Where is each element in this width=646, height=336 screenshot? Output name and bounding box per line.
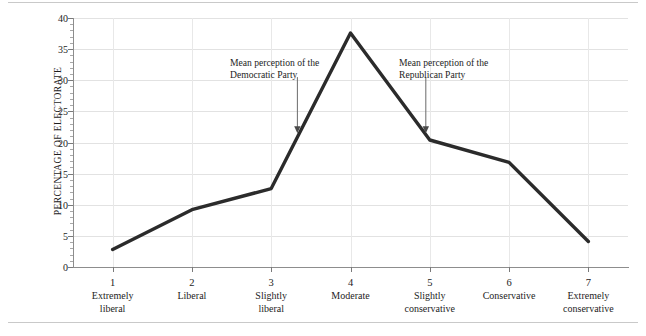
y-axis-minor-tick (70, 217, 73, 218)
y-axis-minor-tick (70, 99, 73, 100)
y-axis-minor-tick (70, 149, 73, 150)
annotation-republican-party: Mean perception of the Republican Party (399, 57, 511, 82)
y-axis-minor-tick (70, 261, 73, 262)
x-axis-tick-label-line2: liberal (58, 303, 168, 316)
grid-line-vertical (430, 18, 431, 267)
y-axis-major-tick (68, 267, 73, 268)
y-axis-minor-tick (70, 55, 73, 56)
y-axis-minor-tick (70, 155, 73, 156)
y-axis-line (73, 18, 74, 268)
grid-line-vertical (192, 18, 193, 267)
grid-line-vertical (351, 18, 352, 267)
y-axis-major-tick (68, 80, 73, 81)
y-axis-minor-tick (70, 248, 73, 249)
grid-line-vertical (588, 18, 589, 267)
y-axis-tick-label: 35 (42, 44, 68, 55)
y-axis-minor-tick (70, 180, 73, 181)
x-axis-tick (430, 267, 431, 272)
x-axis-tick (351, 267, 352, 272)
x-axis-tick (113, 267, 114, 272)
y-axis-minor-tick (70, 161, 73, 162)
y-axis-tick-label: 40 (42, 13, 68, 24)
y-axis-minor-tick (70, 211, 73, 212)
y-axis-major-tick (68, 111, 73, 112)
y-axis-minor-tick (70, 86, 73, 87)
y-axis-minor-tick (70, 230, 73, 231)
y-axis-minor-tick (70, 68, 73, 69)
y-axis-minor-tick (70, 74, 73, 75)
y-axis-major-tick (68, 205, 73, 206)
y-axis-tick-label: 10 (42, 199, 68, 210)
y-axis-minor-tick (70, 37, 73, 38)
y-axis-major-tick (68, 18, 73, 19)
y-axis-minor-tick (70, 223, 73, 224)
x-axis-tick (192, 267, 193, 272)
y-axis-tick-labels: 4035302520151050 (40, 18, 68, 267)
y-axis-minor-tick (70, 192, 73, 193)
x-axis-tick-label-line2: conservative (533, 303, 643, 316)
x-axis-tick (271, 267, 272, 272)
y-axis-minor-tick (70, 124, 73, 125)
y-axis-major-tick (68, 143, 73, 144)
bottom-divider-rule (8, 322, 638, 323)
grid-line-vertical (271, 18, 272, 267)
y-axis-tick-label: 0 (42, 262, 68, 273)
y-axis-tick-label: 15 (42, 168, 68, 179)
grid-line-vertical (509, 18, 510, 267)
x-axis-tick (588, 267, 589, 272)
plot-area (73, 18, 628, 267)
y-axis-minor-tick (70, 24, 73, 25)
y-axis-minor-tick (70, 255, 73, 256)
y-axis-major-tick (68, 174, 73, 175)
x-axis-tick-label-line1: Extremely (533, 290, 643, 303)
y-axis-minor-tick (70, 186, 73, 187)
y-axis-minor-tick (70, 62, 73, 63)
top-divider-rule (8, 2, 638, 3)
y-axis-minor-tick (70, 118, 73, 119)
y-axis-minor-tick (70, 43, 73, 44)
y-axis-minor-tick (70, 93, 73, 94)
y-axis-tick-label: 20 (42, 137, 68, 148)
x-axis-tick-group: 7Extremelyconservative (533, 276, 643, 315)
y-axis-tick-label: 25 (42, 106, 68, 117)
x-axis-tick-number: 7 (533, 276, 643, 289)
figure-container: PERCENTAGE OF ELECTORATE 403530252015105… (0, 0, 646, 336)
y-axis-major-tick (68, 236, 73, 237)
x-axis-tick (509, 267, 510, 272)
y-axis-minor-tick (70, 30, 73, 31)
x-axis-tick-label-line2: liberal (216, 303, 326, 316)
y-axis-minor-tick (70, 105, 73, 106)
y-axis-major-tick (68, 49, 73, 50)
y-axis-minor-tick (70, 199, 73, 200)
y-axis-tick-label: 30 (42, 75, 68, 86)
y-axis-minor-tick (70, 242, 73, 243)
y-axis-minor-tick (70, 167, 73, 168)
x-axis-tick-label-line2: conservative (375, 303, 485, 316)
annotation-democratic-party: Mean perception of the Democratic Party (230, 57, 342, 82)
y-axis-tick-label: 5 (42, 230, 68, 241)
y-axis-minor-tick (70, 136, 73, 137)
grid-line-vertical (113, 18, 114, 267)
y-axis-minor-tick (70, 130, 73, 131)
